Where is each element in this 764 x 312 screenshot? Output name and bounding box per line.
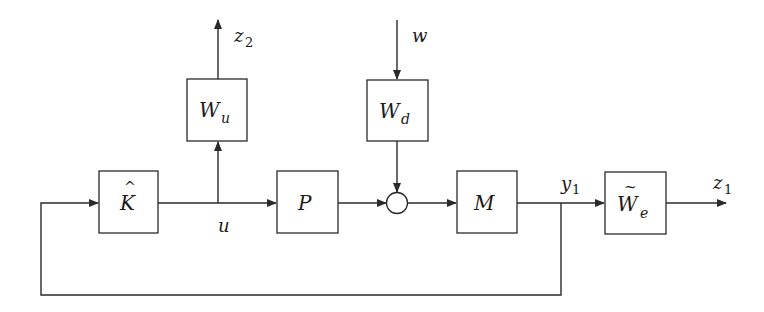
svg-text:e: e	[640, 205, 648, 221]
block-p: P	[277, 171, 338, 233]
svg-text:u: u	[221, 110, 230, 126]
svg-text:w: w	[412, 25, 428, 46]
svg-text:d: d	[401, 111, 410, 127]
summing-junction	[387, 193, 408, 214]
svg-text:^: ^	[124, 179, 136, 195]
block-diagram: K ^ W u W d P M W ~ e u z 2 w y 1	[0, 0, 764, 312]
svg-text:u: u	[218, 215, 230, 236]
svg-text:M: M	[473, 191, 495, 215]
svg-text:W: W	[199, 98, 221, 122]
signal-label-u: u	[218, 215, 230, 236]
svg-text:2: 2	[245, 35, 253, 50]
svg-text:z: z	[712, 172, 723, 193]
svg-text:W: W	[379, 99, 401, 123]
block-wd: W d	[367, 80, 428, 141]
svg-text:1: 1	[572, 182, 580, 197]
block-k-hat: K ^	[99, 171, 158, 233]
svg-text:y: y	[560, 173, 572, 194]
signal-label-z2: z 2	[233, 25, 253, 50]
block-m: M	[457, 171, 517, 233]
block-wu: W u	[187, 79, 247, 141]
svg-text:1: 1	[724, 182, 732, 197]
svg-text:P: P	[297, 191, 312, 215]
signal-label-z1: z 1	[712, 172, 732, 197]
signal-label-y1: y 1	[560, 173, 580, 197]
svg-text:z: z	[233, 25, 244, 46]
signal-label-w: w	[412, 25, 428, 46]
svg-text:~: ~	[624, 178, 637, 196]
block-we-tilde: W ~ e	[605, 172, 666, 234]
